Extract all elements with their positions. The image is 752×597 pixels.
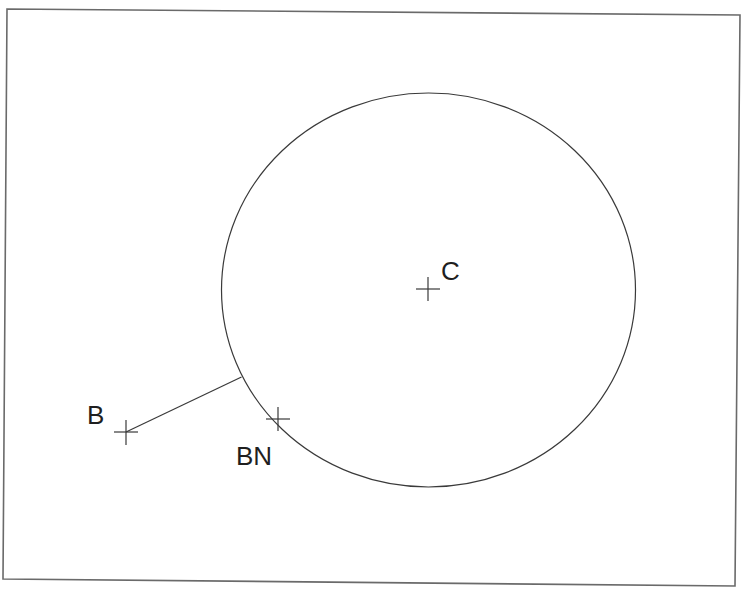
diagram-canvas: C B BN [0,0,752,597]
point-label-b: B [87,400,104,430]
segment-b-to-circle [126,377,242,432]
cross-marker-icon-bn [266,407,290,431]
diagram-frame [3,9,740,586]
point-label-c: C [441,256,460,286]
cross-marker-icon-b [114,420,138,445]
point-label-bn: BN [236,441,272,471]
cross-marker-icon-c [416,277,440,301]
